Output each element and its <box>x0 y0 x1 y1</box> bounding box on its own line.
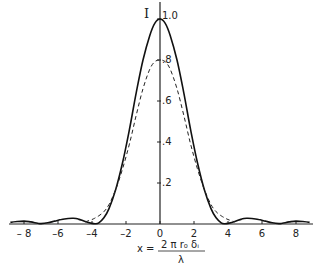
x-axis: – 8–6–4–202468 <box>9 221 313 239</box>
y-tick-label: 1.0 <box>162 10 178 21</box>
formula-lhs: x = <box>137 243 154 254</box>
x-tick-label: 0 <box>157 228 163 239</box>
x-tick-label: –2 <box>120 228 131 239</box>
x-tick-label: 4 <box>225 228 231 239</box>
x-tick-label: –6 <box>52 228 63 239</box>
y-tick-label: .4 <box>162 136 172 147</box>
x-axis-formula: x = 2 π r₀ δᵢ λ <box>137 239 205 265</box>
x-tick-label: 2 <box>191 228 197 239</box>
x-tick-label: – 8 <box>17 228 32 239</box>
intensity-chart: – 8–6–4–202468 .2.4.6.81.0 I x = 2 π r₀ … <box>0 0 319 270</box>
x-tick-label: –4 <box>86 228 97 239</box>
x-tick-label: 6 <box>259 228 265 239</box>
formula-denominator: λ <box>178 254 184 265</box>
y-tick-label: .8 <box>162 54 172 65</box>
y-tick-label: .2 <box>162 177 172 188</box>
formula-numerator: 2 π r₀ δᵢ <box>161 239 199 250</box>
x-tick-label: 8 <box>293 228 299 239</box>
y-tick-label: .6 <box>162 95 172 106</box>
y-axis-label: I <box>144 6 149 21</box>
